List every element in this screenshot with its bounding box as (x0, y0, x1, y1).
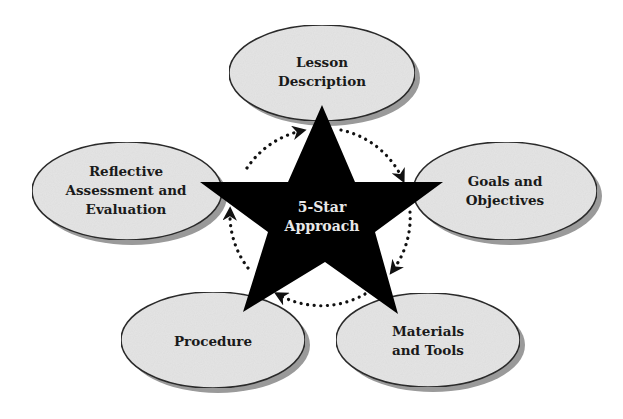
center-star: 5-Star Approach (200, 105, 443, 314)
five-star-approach-diagram: Lesson Description Goals and Objectives … (0, 0, 623, 419)
center-label: 5-Star (298, 199, 347, 215)
arrow-procedure-to-reflective (230, 212, 248, 268)
node-materials-tools: Materials and Tools (336, 293, 525, 392)
node-ellipse (336, 293, 520, 387)
arrow-goals-to-materials (393, 212, 410, 270)
node-goals-objectives: Goals and Objectives (413, 142, 602, 245)
node-label: Evaluation (86, 201, 167, 217)
arrow-reflective-to-lesson (247, 131, 301, 168)
node-label: Lesson (296, 54, 348, 70)
node-reflective-assessment: Reflective Assessment and Evaluation (32, 142, 227, 245)
node-label: and Tools (392, 342, 464, 358)
node-label: Reflective (89, 163, 163, 179)
node-label: Objectives (466, 192, 545, 208)
node-label: Description (278, 73, 366, 89)
center-label: Approach (284, 218, 360, 234)
node-label: Procedure (174, 333, 252, 349)
node-procedure: Procedure (121, 292, 310, 393)
arrow-materials-to-procedure (279, 294, 365, 306)
node-label: Assessment and (64, 182, 187, 198)
node-label: Materials (392, 323, 465, 339)
node-ellipse (413, 142, 597, 240)
node-label: Goals and (468, 173, 543, 189)
